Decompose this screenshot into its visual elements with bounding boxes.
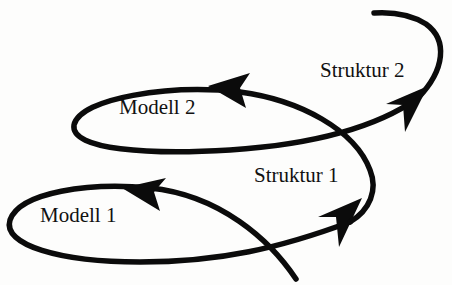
label-modell-2: Modell 2 [119,95,195,119]
loop-1-upper-curve [9,186,350,279]
label-struktur-2: Struktur 2 [320,58,405,82]
label-modell-1: Modell 1 [40,203,116,227]
arrow-icon-loop1 [122,178,166,211]
loop-3-tail-curve [374,13,441,98]
label-struktur-1: Struktur 1 [254,163,339,187]
diagram-svg: Modell 1 Struktur 1 Modell 2 Struktur 2 [0,0,452,285]
spiral-diagram: Modell 1 Struktur 1 Modell 2 Struktur 2 [0,0,452,285]
arrow-icon-struktur1 [318,198,362,247]
